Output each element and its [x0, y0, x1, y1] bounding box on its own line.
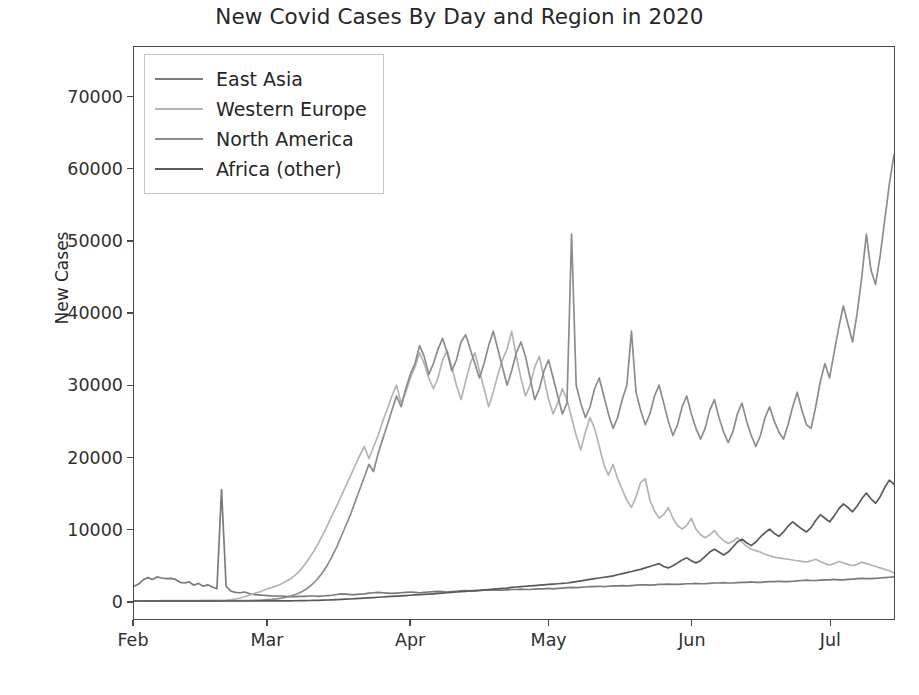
legend-item[interactable]: North America — [155, 124, 367, 154]
series-line — [134, 489, 894, 596]
legend-label: Western Europe — [216, 98, 367, 120]
x-tick-label: Jul — [820, 630, 841, 650]
legend-line-icon — [155, 78, 203, 80]
legend-item[interactable]: Africa (other) — [155, 154, 367, 184]
y-tick-mark — [127, 601, 133, 602]
x-tick-label: Jun — [678, 630, 705, 650]
y-tick-label: 70000 — [0, 87, 123, 107]
legend-line-icon — [155, 168, 203, 170]
x-tick-label: Mar — [250, 630, 283, 650]
y-tick-mark — [127, 312, 133, 313]
page-title: New Covid Cases By Day and Region in 202… — [0, 4, 919, 29]
legend-label: Africa (other) — [216, 158, 342, 180]
x-tick-label: Apr — [395, 630, 425, 650]
legend-line-icon — [155, 138, 203, 140]
x-tick-mark — [266, 620, 267, 626]
x-tick-mark — [830, 620, 831, 626]
y-tick-mark — [127, 529, 133, 530]
legend-item[interactable]: Western Europe — [155, 94, 367, 124]
x-tick-mark — [132, 620, 133, 626]
y-tick-label: 10000 — [0, 520, 123, 540]
y-tick-label: 0 — [0, 592, 123, 612]
legend: East AsiaWestern EuropeNorth AmericaAfri… — [144, 54, 384, 194]
legend-item[interactable]: East Asia — [155, 64, 367, 94]
y-tick-label: 50000 — [0, 231, 123, 251]
y-tick-label: 40000 — [0, 303, 123, 323]
y-tick-label: 20000 — [0, 448, 123, 468]
x-tick-mark — [548, 620, 549, 626]
legend-label: East Asia — [216, 68, 303, 90]
series-line — [134, 331, 894, 601]
legend-label: North America — [216, 128, 354, 150]
x-tick-mark — [409, 620, 410, 626]
y-axis-label: New Cases — [52, 198, 72, 358]
y-tick-mark — [127, 240, 133, 241]
y-tick-mark — [127, 457, 133, 458]
y-tick-label: 60000 — [0, 159, 123, 179]
x-tick-mark — [691, 620, 692, 626]
x-tick-label: May — [531, 630, 567, 650]
y-tick-mark — [127, 168, 133, 169]
y-tick-label: 30000 — [0, 375, 123, 395]
x-tick-label: Feb — [118, 630, 149, 650]
y-tick-mark — [127, 96, 133, 97]
matplotlib-figure: New Covid Cases By Day and Region in 202… — [0, 0, 919, 695]
y-tick-mark — [127, 385, 133, 386]
legend-line-icon — [155, 108, 203, 110]
